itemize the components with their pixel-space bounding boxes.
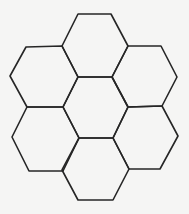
- honeycomb-diagram: [0, 0, 189, 214]
- hexagon-lower-right: [113, 106, 178, 169]
- hexagon-top: [62, 14, 128, 77]
- hexagon-upper-right: [112, 46, 177, 107]
- hexagon-cluster: [0, 0, 189, 214]
- hexagon-lower-left: [12, 107, 79, 171]
- hexagon-bottom: [62, 138, 129, 200]
